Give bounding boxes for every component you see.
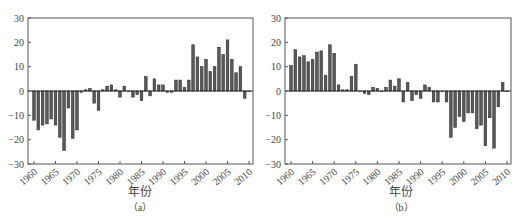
bar <box>205 59 208 91</box>
y-tick-label: 20 <box>14 37 24 48</box>
bar <box>307 62 310 91</box>
x-tick-label: 2000 <box>189 166 211 187</box>
bar <box>424 85 427 91</box>
y-tick-label: 0 <box>19 86 24 97</box>
bar <box>402 91 405 102</box>
bar <box>67 91 70 108</box>
bar <box>415 91 418 95</box>
bar <box>320 51 323 91</box>
x-tick-label: 1975 <box>81 166 103 187</box>
bar <box>480 91 483 125</box>
bar <box>316 52 319 91</box>
caption-a: （a） <box>120 199 160 214</box>
bar <box>222 55 225 92</box>
bar <box>110 85 113 91</box>
x-tick-label: 1975 <box>339 166 361 187</box>
bar <box>97 91 100 110</box>
bar <box>419 91 422 98</box>
y-tick-label: 30 <box>14 13 24 24</box>
y-tick-label: −10 <box>265 110 281 121</box>
y-tick-label: 20 <box>271 37 281 48</box>
bar <box>311 59 314 91</box>
bar <box>294 50 297 91</box>
bar <box>200 67 203 91</box>
bar <box>218 47 221 91</box>
bar <box>462 91 465 121</box>
bar <box>398 79 401 91</box>
y-tick-label: −20 <box>265 134 281 145</box>
bar <box>484 91 487 146</box>
bar <box>337 85 340 91</box>
bar <box>298 57 301 91</box>
bar <box>406 82 409 91</box>
y-tick-label: 10 <box>14 61 24 72</box>
bar <box>411 91 414 101</box>
bar <box>454 91 457 128</box>
bar <box>41 91 44 125</box>
x-tick-label: 1970 <box>317 166 339 187</box>
bar <box>230 59 233 91</box>
bar <box>196 57 199 91</box>
bar <box>501 82 504 91</box>
x-tick-label: 2010 <box>490 166 512 187</box>
bar <box>239 67 242 91</box>
x-tick-label: 1965 <box>295 166 317 187</box>
bar <box>132 91 135 97</box>
bar <box>329 45 332 91</box>
bar <box>324 75 327 91</box>
bar <box>235 73 238 91</box>
bar <box>149 91 152 96</box>
bar <box>389 80 392 91</box>
y-tick-label: −10 <box>8 110 24 121</box>
bar <box>50 91 53 119</box>
x-tick-label: 1970 <box>60 166 82 187</box>
bar <box>187 80 190 91</box>
x-axis-label-b: 年份 <box>371 182 431 200</box>
bar <box>471 91 474 113</box>
y-tick-label: −20 <box>8 134 24 145</box>
bar <box>475 91 478 129</box>
bar <box>290 65 293 91</box>
bar <box>303 56 306 91</box>
bar <box>192 45 195 91</box>
chart-panel-a: 3020100−10−20−30196019651970197519801985… <box>0 0 261 219</box>
bar <box>93 91 96 103</box>
bar <box>123 86 126 91</box>
bar <box>144 76 147 91</box>
bar <box>385 87 388 91</box>
x-tick-label: 1965 <box>38 166 60 187</box>
bar <box>445 91 448 102</box>
x-axis-label-a: 年份 <box>110 182 170 200</box>
bar <box>333 53 336 91</box>
x-tick-label: 1995 <box>167 166 189 187</box>
bar <box>372 87 375 91</box>
y-tick-label: 30 <box>271 13 281 24</box>
bar <box>183 87 186 91</box>
bar <box>37 91 40 130</box>
bar <box>432 91 435 102</box>
bar <box>243 91 246 98</box>
x-tick-label: 2000 <box>447 166 469 187</box>
bar <box>488 91 491 118</box>
bar <box>350 76 353 91</box>
bar <box>226 40 229 91</box>
bar <box>33 91 36 120</box>
bar <box>354 64 357 91</box>
bar <box>136 91 139 95</box>
x-tick-label: 2010 <box>232 166 254 187</box>
y-tick-label: 0 <box>276 86 281 97</box>
bar <box>213 67 216 91</box>
bar <box>393 86 396 91</box>
bar <box>497 91 500 107</box>
y-tick-label: −30 <box>265 159 281 170</box>
bar <box>63 91 66 151</box>
bar <box>58 91 61 137</box>
bar <box>46 91 49 124</box>
bar <box>437 91 440 102</box>
y-tick-label: 10 <box>271 61 281 72</box>
x-tick-label: 2005 <box>210 166 232 187</box>
bar <box>209 72 212 91</box>
bar <box>71 91 74 138</box>
bar <box>76 91 79 130</box>
bar <box>54 91 57 125</box>
